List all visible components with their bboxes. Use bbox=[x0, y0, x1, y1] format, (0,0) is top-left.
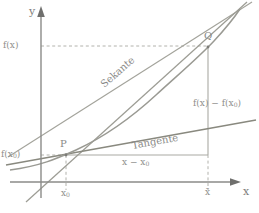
point-label-q: Q bbox=[204, 31, 212, 41]
point-q-marker bbox=[207, 46, 210, 49]
y-axis-arrow-icon bbox=[37, 6, 45, 17]
point-label-p: P bbox=[60, 139, 67, 149]
y-tick-label-fx0: f(x0) bbox=[1, 150, 20, 159]
delta-x-label: x − x0 bbox=[122, 158, 149, 167]
x-axis-label: x bbox=[243, 186, 249, 197]
auxiliary-line-through-q bbox=[8, 2, 252, 157]
delta-y-label-sub: 0 bbox=[234, 101, 238, 108]
delta-y-label-suffix: ) bbox=[238, 98, 242, 108]
point-p-marker bbox=[65, 154, 68, 157]
y-tick-label-fx0-suffix: ) bbox=[17, 149, 21, 159]
y-tick-label-fx0-prefix: f(x bbox=[1, 149, 13, 159]
delta-x-label-sub: 0 bbox=[145, 160, 149, 167]
x-tick-label-x0-sub: 0 bbox=[66, 191, 70, 198]
x-tick-label-xbar: x̄ bbox=[205, 188, 210, 197]
x-axis-arrow-icon bbox=[230, 178, 241, 186]
x-tick-label-x0: x0 bbox=[61, 189, 70, 198]
y-tick-label-fx0-sub: 0 bbox=[13, 152, 17, 159]
delta-y-label-prefix: f(x) − f(x bbox=[193, 98, 234, 108]
y-tick-label-fx: f(x) bbox=[3, 41, 18, 50]
figure-canvas: y x f(x) f(x0) x0 x̄ P Q Sekante Tangent… bbox=[0, 0, 259, 213]
delta-y-label: f(x) − f(x0) bbox=[193, 99, 241, 108]
delta-x-label-prefix: x − x bbox=[122, 157, 145, 167]
y-axis-label: y bbox=[29, 6, 35, 17]
